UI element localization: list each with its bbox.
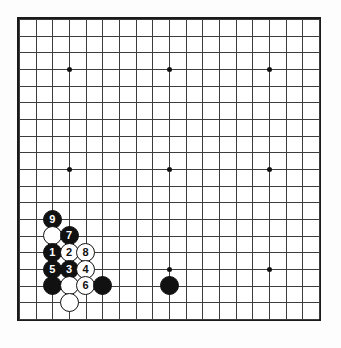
board-border	[17, 17, 321, 321]
go-board-diagram: 971285346	[0, 0, 341, 348]
